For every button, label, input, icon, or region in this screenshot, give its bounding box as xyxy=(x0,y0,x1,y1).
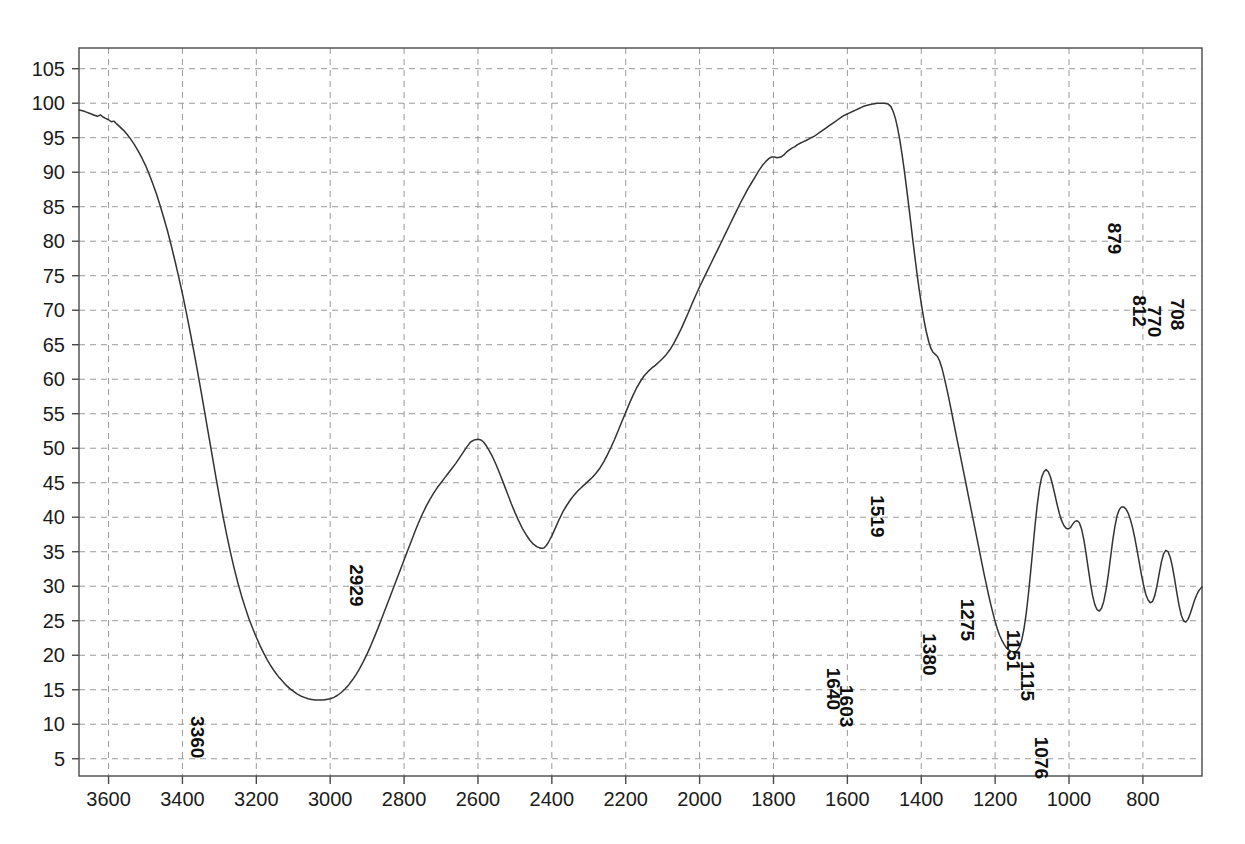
x-axis-tick-label: 2200 xyxy=(603,788,648,810)
y-axis-tick-label: 15 xyxy=(43,679,65,701)
y-axis-tick-label: 90 xyxy=(43,161,65,183)
y-axis-tick-label: 55 xyxy=(43,403,65,425)
x-axis-tick-label: 3000 xyxy=(308,788,353,810)
peak-label-text: 1603 xyxy=(836,685,857,727)
peak-label: 708 xyxy=(1167,299,1188,331)
peak-label-text: 3360 xyxy=(187,716,208,758)
y-axis-tick-label: 5 xyxy=(54,748,65,770)
peak-label-text: 1275 xyxy=(957,599,978,642)
y-axis-tick-label: 20 xyxy=(43,644,65,666)
x-axis-tick-label: 3600 xyxy=(86,788,131,810)
peak-label: 1275 xyxy=(957,599,978,642)
x-axis-tick-label: 2600 xyxy=(456,788,501,810)
peak-label-text: 1076 xyxy=(1031,737,1052,779)
peak-label: 2929 xyxy=(346,564,367,606)
peak-label-text: 1519 xyxy=(867,495,888,537)
x-axis: 3600340032003000280026002400220020001800… xyxy=(86,776,1159,810)
peak-label: 879 xyxy=(1104,223,1125,255)
y-axis-tick-label: 40 xyxy=(43,506,65,528)
x-axis-tick-label: 800 xyxy=(1126,788,1159,810)
y-axis-tick-label: 25 xyxy=(43,610,65,632)
ir-spectrum-chart: 5101520253035404550556065707580859095100… xyxy=(0,0,1245,844)
y-axis-tick-label: 95 xyxy=(43,127,65,149)
peak-label-text: 879 xyxy=(1104,223,1125,255)
y-axis-tick-label: 45 xyxy=(43,472,65,494)
spectrum-plot-area: 5101520253035404550556065707580859095100… xyxy=(0,0,1245,844)
peak-label: 770 xyxy=(1144,306,1165,338)
y-axis-tick-label: 10 xyxy=(43,713,65,735)
y-axis-tick-label: 60 xyxy=(43,368,65,390)
x-axis-tick-label: 1400 xyxy=(899,788,944,810)
x-axis-tick-label: 2000 xyxy=(677,788,722,810)
y-axis: 5101520253035404550556065707580859095100… xyxy=(32,58,79,770)
peak-label: 1380 xyxy=(919,633,940,675)
x-axis-tick-label: 3200 xyxy=(234,788,279,810)
y-axis-tick-label: 35 xyxy=(43,541,65,563)
peak-label: 3360 xyxy=(187,716,208,758)
y-axis-tick-label: 85 xyxy=(43,196,65,218)
x-axis-tick-label: 2800 xyxy=(382,788,427,810)
x-axis-tick-label: 1800 xyxy=(751,788,796,810)
x-axis-tick-label: 2400 xyxy=(530,788,575,810)
peak-label: 1519 xyxy=(867,495,888,537)
y-axis-tick-label: 50 xyxy=(43,437,65,459)
peak-label: 1603 xyxy=(836,685,857,727)
y-axis-tick-label: 70 xyxy=(43,299,65,321)
peak-label: 1076 xyxy=(1031,737,1052,779)
peak-label: 1115 xyxy=(1017,661,1038,702)
peak-label-text: 2929 xyxy=(346,564,367,606)
x-axis-tick-label: 1600 xyxy=(825,788,870,810)
peak-label-text: 770 xyxy=(1144,306,1165,338)
y-axis-tick-label: 100 xyxy=(32,92,65,114)
peak-label-text: 1115 xyxy=(1017,661,1038,702)
y-axis-tick-label: 65 xyxy=(43,334,65,356)
y-axis-tick-label: 105 xyxy=(32,58,65,80)
x-axis-tick-label: 3400 xyxy=(160,788,205,810)
y-axis-tick-label: 80 xyxy=(43,230,65,252)
peak-label-text: 1380 xyxy=(919,633,940,675)
x-axis-tick-label: 1000 xyxy=(1047,788,1092,810)
peak-label-text: 708 xyxy=(1167,299,1188,331)
y-axis-tick-label: 75 xyxy=(43,265,65,287)
x-axis-tick-label: 1200 xyxy=(973,788,1018,810)
y-axis-tick-label: 30 xyxy=(43,575,65,597)
